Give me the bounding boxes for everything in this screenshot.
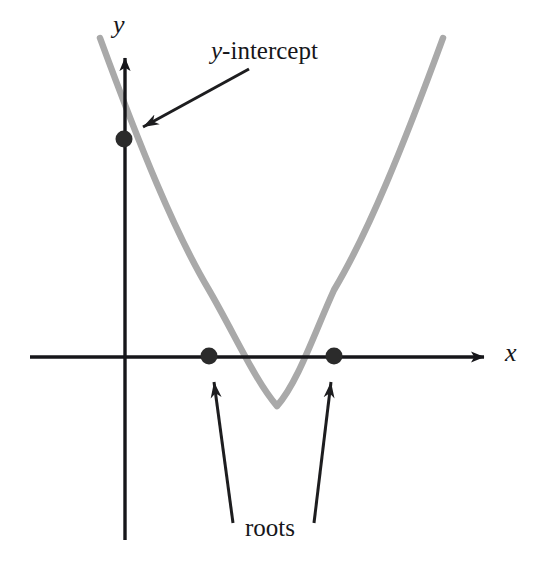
y-intercept-leader-arrow — [143, 69, 249, 127]
roots-annotation-label: roots — [245, 515, 295, 540]
y-intercept-label-roman-part: -intercept — [222, 37, 318, 64]
root-right-point — [326, 348, 343, 365]
root-left-point — [201, 348, 218, 365]
x-axis-label: x — [505, 340, 517, 366]
roots-leader-arrow-left — [214, 382, 233, 523]
y-intercept-annotation-label: y-intercept — [211, 38, 318, 63]
figure-canvas — [0, 0, 548, 574]
roots-leader-arrow-right — [314, 382, 331, 523]
y-intercept-point — [116, 131, 133, 148]
parabola-curve — [100, 38, 443, 406]
y-axis-label: y — [113, 12, 125, 38]
parabola-figure: y x y-intercept roots — [0, 0, 548, 574]
y-intercept-label-italic-part: y — [211, 37, 222, 64]
